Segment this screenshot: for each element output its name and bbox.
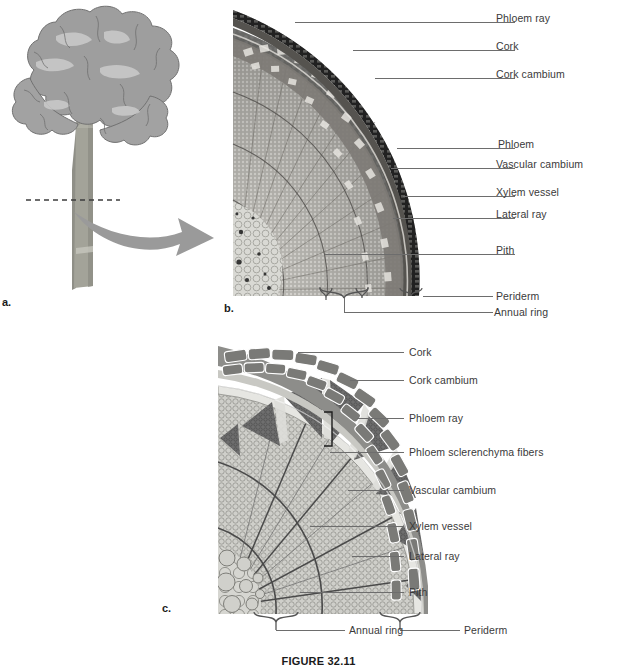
- label-xylem-vessel-c: Xylem vessel: [409, 521, 472, 532]
- leader-cork: [353, 50, 515, 51]
- leader-phloem-fibers-c: [330, 452, 404, 453]
- panel-a-letter: a.: [2, 296, 11, 308]
- leader-annual-ring-b: [344, 312, 493, 313]
- label-pith-c: Pith: [409, 587, 428, 598]
- tree-canopy: [12, 6, 179, 145]
- label-phloem-ray-c: Phloem ray: [409, 413, 463, 424]
- panel-b-braces: [318, 284, 448, 320]
- label-vascular-cambium-b: Vascular cambium: [496, 159, 583, 170]
- leader-vascular-cambium-c: [348, 490, 404, 491]
- panel-c-letter: c.: [162, 602, 171, 614]
- label-vascular-cambium-c: Vascular cambium: [409, 485, 496, 496]
- panel-c-braces: [252, 608, 442, 642]
- label-phloem-b: Phloem: [498, 139, 534, 150]
- label-cork-cambium-c: Cork cambium: [409, 375, 478, 386]
- label-pith-b: Pith: [496, 245, 515, 256]
- panel-b-micrograph: b.: [225, 4, 425, 296]
- label-lateral-ray-b: Lateral ray: [496, 209, 547, 220]
- leader-cork-cambium: [375, 78, 515, 79]
- label-periderm-b: Periderm: [496, 291, 539, 302]
- label-phloem-ray-b: Phloem ray: [496, 13, 550, 24]
- leader-cork-cambium-c: [350, 380, 404, 381]
- phloem-ray-bracket: [322, 410, 340, 450]
- label-cork-b: Cork: [496, 41, 519, 52]
- leader-periderm-b-stem: [423, 296, 424, 297]
- tree-illustration: [0, 0, 215, 318]
- leader-annual-ring-c: [276, 630, 345, 631]
- leader-phloem-ray-c: [357, 418, 404, 419]
- leader-xylem-vessel-c: [310, 526, 404, 527]
- label-xylem-vessel-b: Xylem vessel: [496, 187, 559, 198]
- stem-diagram: [218, 342, 428, 614]
- label-annual-ring-b: Annual ring: [494, 307, 548, 318]
- label-lateral-ray-c: Lateral ray: [409, 551, 460, 562]
- label-cork-c: Cork: [409, 347, 432, 358]
- leader-lateral-ray-c: [352, 556, 404, 557]
- panel-a-tree: a.: [0, 0, 215, 318]
- micrograph-image: [225, 4, 425, 296]
- leader-cork-c: [298, 352, 404, 353]
- label-cork-cambium-b: Cork cambium: [496, 69, 565, 80]
- label-annual-ring-c: Annual ring: [349, 625, 403, 636]
- leader-pith: [325, 254, 515, 255]
- curved-arrow-icon: [74, 212, 214, 256]
- panel-b-letter: b.: [224, 302, 234, 314]
- leader-phloem-ray: [295, 22, 515, 23]
- leader-pith-c: [300, 592, 404, 593]
- label-periderm-c: Periderm: [464, 625, 507, 636]
- panel-c-diagram: c.: [218, 342, 428, 614]
- figure-caption: FIGURE 32.11: [0, 655, 637, 666]
- label-phloem-fibers-c: Phloem sclerenchyma fibers: [409, 447, 544, 458]
- leader-periderm-c: [400, 630, 460, 631]
- leader-annual-ring-b-stem: [344, 298, 345, 313]
- leader-periderm-b: [423, 296, 493, 297]
